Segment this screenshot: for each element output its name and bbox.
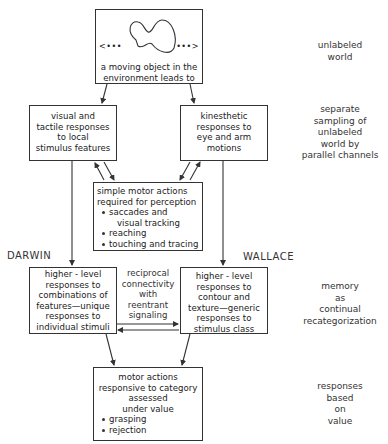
annotation-text: sampling of (295, 116, 385, 128)
arrow-motor-to-kinesthetic (190, 162, 200, 180)
amoeba-object-icon (96, 10, 202, 62)
bullet-icon (102, 243, 105, 246)
node-text: responses to (181, 313, 267, 324)
annotation-text: unlabeled (295, 127, 385, 139)
bullet-icon (102, 232, 105, 235)
node-text: contour and (181, 292, 267, 303)
node-text: a moving object in the (96, 62, 202, 73)
annotation-text: separate (295, 104, 385, 116)
annotation-text: on (295, 404, 385, 416)
bullet-text: grasping (109, 414, 146, 424)
node-text: responses to (30, 280, 116, 291)
label-text: connectivity (116, 279, 180, 290)
node-text: stimulus features (30, 143, 116, 154)
label-text: with (116, 289, 180, 300)
bullet-text: reaching (109, 228, 146, 238)
annotation-text: world (295, 52, 385, 64)
annotation-memory: memory as continual recategorization (295, 281, 385, 327)
node-text: higher - level (30, 269, 116, 280)
annotation-responses-value: responses based on value (295, 381, 385, 427)
node-text: combinations of (30, 290, 116, 301)
annotation-text: recategorization (295, 316, 385, 328)
node-text: features—unique (30, 301, 116, 312)
node-text: assessed (94, 393, 202, 404)
node-text: texture—generic (181, 303, 267, 314)
node-text: tactile responses (30, 122, 116, 133)
node-simple-motor-actions: simple motor actions required for percep… (93, 182, 203, 251)
node-text: eye and arm (181, 132, 267, 143)
annotation-text: continual (295, 304, 385, 316)
bullet-text: rejection (109, 425, 147, 435)
wallace-label: WALLACE (243, 251, 294, 262)
node-text: responses to (181, 282, 267, 293)
node-text: responsive to category (94, 383, 202, 394)
bullet-item: reaching (97, 228, 202, 239)
node-text: motor actions (94, 372, 202, 383)
label-text: signaling (116, 310, 180, 321)
bullet-icon (102, 418, 105, 421)
reentrant-signaling-label: reciprocal connectivity with reentrant s… (116, 268, 180, 321)
bullet-continuation: visual tracking (97, 218, 202, 229)
node-text: higher - level (181, 271, 267, 282)
annotation-text: as (295, 293, 385, 305)
annotation-text: value (295, 416, 385, 428)
bullet-item: saccades and (97, 207, 202, 218)
arrow-world-to-kinesthetic (190, 84, 194, 103)
node-text: kinesthetic (181, 111, 267, 122)
node-darwin-higher-level: higher - level responses to combinations… (29, 267, 117, 334)
bullet-text: touching and tracing (109, 239, 198, 249)
node-motor-actions-value: motor actions responsive to category ass… (93, 367, 203, 441)
annotation-unlabeled-world: unlabeled world (295, 40, 385, 63)
arrow-kinesthetic-to-motor (180, 162, 190, 180)
node-text: to local (30, 132, 116, 143)
arrow-visual-to-motor (104, 162, 114, 180)
annotation-text: parallel channels (295, 150, 385, 162)
label-text: reentrant (116, 300, 180, 311)
node-text: responses to (30, 311, 116, 322)
annotation-parallel-channels: separate sampling of unlabeled world by … (295, 104, 385, 162)
label-text: reciprocal (116, 268, 180, 279)
node-text: individual stimuli (30, 322, 116, 333)
node-text: simple motor actions (97, 186, 202, 197)
node-visual-tactile: visual and tactile responses to local st… (29, 105, 117, 161)
node-text: under value (94, 404, 202, 415)
node-text: stimulus class (181, 324, 267, 335)
node-kinesthetic: kinesthetic responses to eye and arm mot… (180, 105, 268, 161)
annotation-text: memory (295, 281, 385, 293)
bullet-text: saccades and (109, 207, 168, 217)
arrow-motor-to-visual (95, 163, 104, 180)
left-motion-indicator: <••• (99, 42, 122, 53)
annotation-text: unlabeled (295, 40, 385, 52)
annotation-text: based (295, 393, 385, 405)
darwin-label: DARWIN (7, 250, 51, 261)
arrow-darwin-to-motor-value (106, 334, 114, 365)
arrow-world-to-visual (102, 84, 107, 103)
node-text: required for perception (97, 197, 202, 208)
arrow-wallace-to-motor-value (182, 334, 190, 365)
annotation-text: responses (295, 381, 385, 393)
right-motion-indicator: •••> (176, 42, 199, 53)
node-text: responses to (181, 122, 267, 133)
node-text: visual and (30, 111, 116, 122)
node-text: environment leads to (96, 73, 202, 84)
node-moving-object: <••• •••> a moving object in the environ… (95, 9, 203, 84)
bullet-item: grasping (94, 414, 202, 425)
bullet-icon (102, 211, 105, 214)
node-wallace-higher-level: higher - level responses to contour and … (180, 267, 268, 334)
bullet-icon (102, 429, 105, 432)
node-text: motions (181, 143, 267, 154)
annotation-text: world by (295, 139, 385, 151)
bullet-item: touching and tracing (97, 239, 202, 250)
bullet-item: rejection (94, 425, 202, 436)
